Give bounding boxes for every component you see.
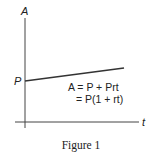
equation-line-2: = P(1 + rt) [76,93,123,105]
y-axis-label: A [21,6,28,17]
equation-line-1: A = P + Prt [68,81,119,93]
x-axis-label: t [142,117,145,128]
intercept-label: P [14,76,21,87]
growth-line [25,68,124,81]
simple-interest-figure: A P t A = P + Prt = P(1 + rt) Figure 1 [0,0,162,163]
figure-caption: Figure 1 [0,139,162,151]
